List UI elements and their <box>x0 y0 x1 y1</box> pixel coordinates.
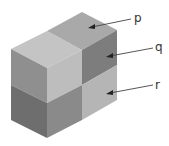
label-p: p <box>134 11 142 25</box>
label-q: q <box>155 40 163 54</box>
label-r: r <box>155 78 160 92</box>
cube-block-diagram: p q r <box>0 0 169 146</box>
